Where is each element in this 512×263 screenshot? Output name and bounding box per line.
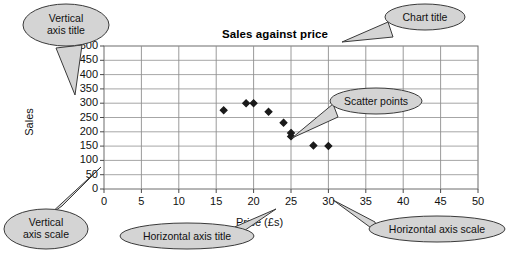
horizontal-axis-title-callout-bubble	[120, 223, 254, 249]
callout-layer	[0, 0, 512, 263]
vertical-axis-title-callout-tail	[56, 45, 82, 95]
scatter-points-callout-tail	[292, 104, 338, 138]
chart-title-callout-bubble	[385, 4, 465, 30]
chart-title-callout-tail	[342, 22, 393, 42]
horizontal-axis-scale-callout-bubble	[369, 216, 505, 242]
vertical-axis-title-callout-bubble	[23, 4, 109, 46]
vertical-axis-scale-callout-bubble	[4, 209, 88, 249]
vertical-axis-scale-callout-tail	[49, 167, 101, 215]
scatter-chart-figure: 050100150200250300350400450500 051015202…	[0, 0, 512, 263]
scatter-points-callout-bubble	[330, 88, 422, 114]
